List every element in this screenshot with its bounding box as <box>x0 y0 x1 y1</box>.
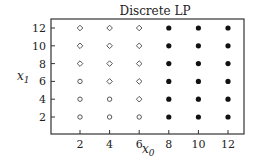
point-filled-circle <box>196 114 201 119</box>
x-tick-label: 8 <box>165 138 172 151</box>
point-open-diamond <box>136 79 142 85</box>
point-open-diamond <box>136 61 142 67</box>
point-filled-circle <box>196 79 201 84</box>
point-open-circle <box>137 115 141 119</box>
x-tick-label: 2 <box>77 138 84 151</box>
point-open-circle <box>107 97 111 101</box>
plot-frame <box>51 19 244 134</box>
point-open-diamond <box>136 96 142 102</box>
point-open-diamond <box>136 25 142 31</box>
x-tick-label: 12 <box>221 138 235 151</box>
chart-title: Discrete LP <box>120 4 191 18</box>
point-filled-circle <box>166 97 171 102</box>
point-open-circle <box>78 79 82 83</box>
y-tick-label: 10 <box>32 40 46 53</box>
x-axis-label: x0 <box>142 142 155 158</box>
y-tick-label: 6 <box>39 75 46 88</box>
point-filled-circle <box>225 43 230 48</box>
y-axis-label: x1 <box>17 69 30 85</box>
point-open-diamond <box>107 61 113 67</box>
y-tick-label: 2 <box>39 111 46 124</box>
point-open-diamond <box>77 25 83 31</box>
point-filled-circle <box>225 25 230 30</box>
point-filled-circle <box>196 25 201 30</box>
point-open-diamond <box>107 25 113 31</box>
point-open-circle <box>107 115 111 119</box>
point-filled-circle <box>225 97 230 102</box>
y-tick-label: 4 <box>39 93 46 106</box>
x-tick-label: 10 <box>191 138 205 151</box>
y-tick-label: 8 <box>39 58 46 71</box>
point-open-diamond <box>77 61 83 67</box>
axes: 2468101224681012 <box>32 19 244 151</box>
point-filled-circle <box>196 43 201 48</box>
point-filled-circle <box>166 79 171 84</box>
point-filled-circle <box>166 25 171 30</box>
point-filled-circle <box>196 97 201 102</box>
point-open-diamond <box>107 79 113 85</box>
point-filled-circle <box>166 43 171 48</box>
data-points <box>77 25 230 119</box>
point-filled-circle <box>225 61 230 66</box>
point-filled-circle <box>166 61 171 66</box>
point-open-diamond <box>77 43 83 49</box>
point-open-diamond <box>107 43 113 49</box>
point-filled-circle <box>196 61 201 66</box>
x-tick-label: 4 <box>106 138 113 151</box>
y-tick-label: 12 <box>32 22 46 35</box>
point-filled-circle <box>225 79 230 84</box>
point-filled-circle <box>166 114 171 119</box>
point-open-circle <box>78 115 82 119</box>
scatter-chart: 2468101224681012 Discrete LP x0 x1 <box>0 0 257 162</box>
point-filled-circle <box>225 114 230 119</box>
point-open-diamond <box>136 43 142 49</box>
point-open-circle <box>78 97 82 101</box>
